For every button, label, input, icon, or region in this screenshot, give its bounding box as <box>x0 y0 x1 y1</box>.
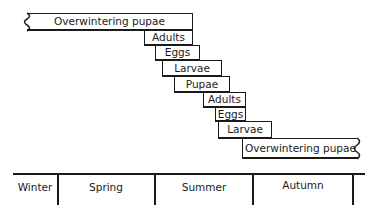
stage-label: Larvae <box>227 124 263 135</box>
stage-overwintering-pupae-start: Overwintering pupae <box>27 13 193 31</box>
stage-label: Overwintering pupae <box>54 16 165 27</box>
stage-overwintering-pupae-end: Overwintering pupae <box>242 138 358 159</box>
break-wave-icon <box>22 13 34 31</box>
stage-label: Eggs <box>218 109 243 120</box>
stage-larvae-1: Larvae <box>162 60 222 77</box>
season-winter: Winter <box>13 181 57 193</box>
stage-label: Eggs <box>165 47 190 58</box>
season-summer: Summer <box>155 181 253 193</box>
stage-label: Larvae <box>174 63 210 74</box>
stage-label: Adults <box>208 94 241 105</box>
stage-eggs-1: Eggs <box>155 45 200 61</box>
season-spring: Spring <box>57 181 155 193</box>
season-autumn: Autumn <box>253 179 353 191</box>
stage-eggs-2: Eggs <box>215 107 246 122</box>
stage-label: Adults <box>152 32 185 43</box>
stage-adults-1: Adults <box>144 30 193 46</box>
stage-larvae-2: Larvae <box>218 121 272 139</box>
stage-label: Pupae <box>186 79 218 90</box>
stage-label: Overwintering pupae <box>245 143 356 154</box>
break-wave-icon <box>352 138 364 159</box>
stage-pupae: Pupae <box>174 76 230 93</box>
life-cycle-diagram: Overwintering pupae Adults Eggs Larvae P… <box>0 0 378 216</box>
timeline-axis <box>13 173 365 175</box>
stage-adults-2: Adults <box>203 92 246 108</box>
